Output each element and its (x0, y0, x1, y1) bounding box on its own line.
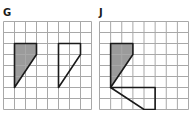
panel-g-label: G (3, 8, 11, 18)
panel-j-grid (99, 21, 189, 110)
panel-j-label: J (99, 8, 103, 18)
panel-g-grid (3, 21, 92, 110)
